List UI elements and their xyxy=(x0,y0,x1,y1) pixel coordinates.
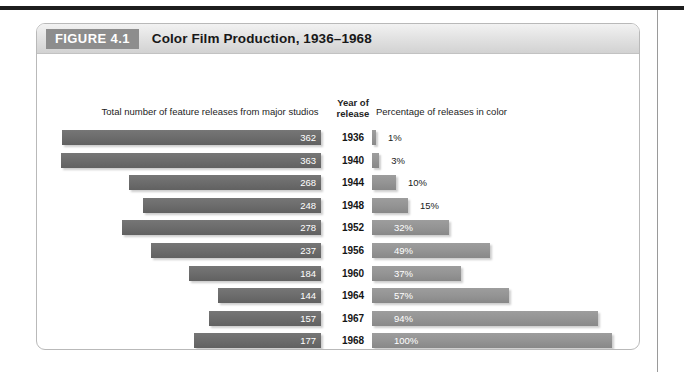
year-label: 1944 xyxy=(331,175,375,190)
total-releases-value: 237 xyxy=(300,243,316,258)
total-releases-value: 248 xyxy=(300,198,316,213)
chart-rows: 36219361%36319403%268194410%248194815%27… xyxy=(37,128,639,350)
total-releases-bar: 157 xyxy=(209,311,322,326)
chart-row: 268194410% xyxy=(37,173,639,196)
total-releases-value: 362 xyxy=(300,130,316,145)
total-releases-track: 184 xyxy=(61,266,321,281)
total-releases-bar: 268 xyxy=(129,175,321,190)
percentage-color-value: 15% xyxy=(420,198,439,213)
percentage-color-value: 1% xyxy=(388,130,402,145)
total-releases-value: 144 xyxy=(300,288,316,303)
total-releases-value: 157 xyxy=(300,311,316,326)
year-label: 1940 xyxy=(331,153,375,168)
percentage-color-bar xyxy=(372,266,461,281)
percentage-color-value: 100% xyxy=(394,333,418,348)
year-label: 1964 xyxy=(331,288,375,303)
year-label: 1968 xyxy=(331,333,375,348)
percentage-color-bar xyxy=(372,198,408,213)
page-top-rule xyxy=(0,6,684,10)
total-releases-value: 177 xyxy=(300,333,316,348)
percentage-color-bar xyxy=(372,153,379,168)
total-releases-value: 363 xyxy=(300,153,316,168)
total-releases-bar: 177 xyxy=(194,333,321,348)
percentage-color-track: 10% xyxy=(372,175,612,190)
year-label: 1948 xyxy=(331,198,375,213)
chart-row: 157196794% xyxy=(37,309,639,332)
percentage-color-bar xyxy=(372,175,396,190)
figure-number-badge: FIGURE 4.1 xyxy=(46,29,139,49)
total-releases-value: 268 xyxy=(300,175,316,190)
year-label: 1952 xyxy=(331,220,375,235)
percentage-color-value: 49% xyxy=(394,243,413,258)
figure-title: Color Film Production, 1936–1968 xyxy=(152,32,372,46)
year-label: 1936 xyxy=(331,130,375,145)
total-releases-track: 157 xyxy=(61,311,321,326)
column-header-year-line2: release xyxy=(331,109,375,120)
total-releases-bar: 144 xyxy=(218,288,321,303)
percentage-color-bar xyxy=(372,288,509,303)
figure-container: FIGURE 4.1 Color Film Production, 1936–1… xyxy=(36,23,640,350)
total-releases-bar: 363 xyxy=(61,153,321,168)
total-releases-bar: 248 xyxy=(143,198,321,213)
percentage-color-track: 100% xyxy=(372,333,612,348)
year-label: 1956 xyxy=(331,243,375,258)
figure-header: FIGURE 4.1 Color Film Production, 1936–1… xyxy=(37,24,639,54)
total-releases-track: 268 xyxy=(61,175,321,190)
percentage-color-value: 32% xyxy=(394,220,413,235)
percentage-color-bar xyxy=(372,243,490,258)
total-releases-bar: 278 xyxy=(122,220,321,235)
chart-row: 36219361% xyxy=(37,128,639,151)
total-releases-bar: 362 xyxy=(62,130,321,145)
total-releases-track: 362 xyxy=(61,130,321,145)
chart-row: 184196037% xyxy=(37,264,639,287)
percentage-color-value: 57% xyxy=(394,288,413,303)
percentage-color-track: 57% xyxy=(372,288,612,303)
total-releases-track: 278 xyxy=(61,220,321,235)
total-releases-value: 184 xyxy=(300,266,316,281)
chart-row: 248194815% xyxy=(37,196,639,219)
year-label: 1967 xyxy=(331,311,375,326)
chart-row: 144196457% xyxy=(37,286,639,309)
percentage-color-track: 1% xyxy=(372,130,612,145)
percentage-color-bar xyxy=(372,130,376,145)
total-releases-track: 177 xyxy=(61,333,321,348)
chart-row: 278195232% xyxy=(37,218,639,241)
total-releases-bar: 184 xyxy=(189,266,321,281)
figure-body: Total number of feature releases from ma… xyxy=(37,54,639,350)
percentage-color-track: 3% xyxy=(372,153,612,168)
page-right-rule xyxy=(657,10,658,372)
percentage-color-track: 15% xyxy=(372,198,612,213)
total-releases-track: 237 xyxy=(61,243,321,258)
percentage-color-track: 94% xyxy=(372,311,612,326)
chart-row: 237195649% xyxy=(37,241,639,264)
chart-row: 1771968100% xyxy=(37,331,639,350)
percentage-color-value: 37% xyxy=(394,266,413,281)
total-releases-track: 248 xyxy=(61,198,321,213)
percentage-color-track: 37% xyxy=(372,266,612,281)
total-releases-bar: 237 xyxy=(151,243,321,258)
total-releases-track: 363 xyxy=(61,153,321,168)
total-releases-track: 144 xyxy=(61,288,321,303)
percentage-color-value: 3% xyxy=(391,153,405,168)
percentage-color-value: 94% xyxy=(394,311,413,326)
column-header-year: Year of release xyxy=(331,98,375,119)
percentage-color-track: 32% xyxy=(372,220,612,235)
year-label: 1960 xyxy=(331,266,375,281)
percentage-color-value: 10% xyxy=(408,175,427,190)
percentage-color-track: 49% xyxy=(372,243,612,258)
column-header-total-releases: Total number of feature releases from ma… xyxy=(99,107,321,118)
chart-row: 36319403% xyxy=(37,151,639,174)
total-releases-value: 278 xyxy=(300,220,316,235)
column-header-percentage-color: Percentage of releases in color xyxy=(376,107,507,118)
